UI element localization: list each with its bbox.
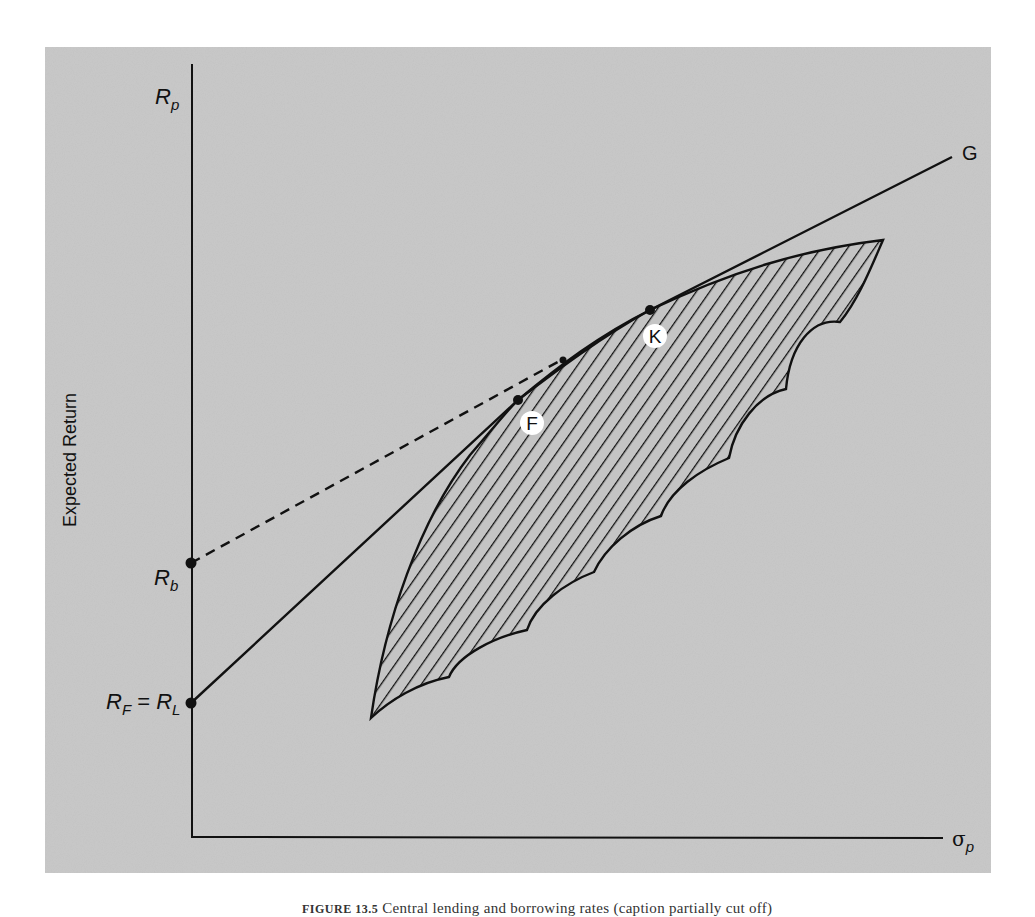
rf-rl-label: RF = RL: [106, 689, 180, 718]
tangency-point: [560, 357, 567, 364]
caption-text: Central lending and borrowing rates (cap…: [382, 900, 772, 916]
x-axis: [191, 837, 943, 838]
f-label: F: [526, 413, 538, 434]
g-label: G: [962, 142, 978, 164]
efficient-frontier-figure: F K G Rp σp Expected Return Rb RF = RL: [0, 0, 1035, 917]
figure-caption: FIGURE 13.5 Central lending and borrowin…: [302, 900, 772, 917]
y-axis-title: Expected Return: [60, 393, 80, 527]
rb-point: [186, 558, 197, 569]
f-point: [513, 395, 523, 405]
k-label: K: [649, 326, 662, 347]
k-point: [645, 305, 655, 315]
rf-point: [186, 698, 197, 709]
caption-lead: FIGURE 13.5: [302, 902, 378, 916]
